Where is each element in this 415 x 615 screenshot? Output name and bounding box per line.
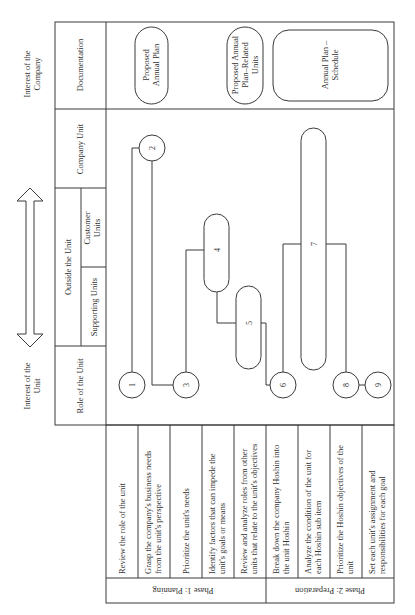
phase-label-planning: Phase 1: Planning [152, 586, 214, 596]
hoshin-process-diagram: Interest of the Company Interest of the … [0, 0, 415, 615]
step-6: Break down the company Hoshin into the u… [271, 445, 291, 574]
node-number: 3 [182, 383, 191, 387]
node-9: 9 [365, 372, 391, 398]
row-label-outside-the-unit: Outside the Unit [63, 238, 73, 295]
step-2: Grasp the company's business needs from … [143, 451, 163, 574]
document-label-line1: Annual Plan – [320, 40, 330, 89]
document-label-line1: Proposed Annual [230, 35, 240, 94]
axis-label-company-line1: Interest of the [22, 50, 32, 97]
step-1: Review the role of the unit [117, 482, 127, 574]
step-label-line1: Set each unit's assignment and [367, 470, 377, 574]
node-number: 1 [128, 383, 137, 387]
step-label-line2: unit [345, 560, 355, 574]
step-9: Set each unit's assignment and responsib… [367, 470, 387, 574]
step-5: Review and analyze roles from other unit… [239, 444, 259, 574]
node-8: 8 [333, 372, 359, 398]
node-number: 8 [342, 383, 351, 387]
row-label-role-of-the-unit: Role of the Unit [75, 358, 85, 414]
node-number: 2 [148, 146, 157, 150]
node-number: 7 [310, 242, 319, 246]
node-7: 7 [301, 128, 326, 370]
document-proposed-annual-plan-related-units: Proposed Annual Plan–Related Units [227, 27, 263, 104]
step-label-line1: Break down the company Hoshin into [271, 445, 281, 574]
row-label-documentation: Documentation [75, 38, 85, 91]
node-3: 3 [173, 372, 199, 398]
node-1: 1 [119, 372, 145, 398]
axis-label-unit-line2: Unit [32, 378, 42, 394]
document-label-line2: Schedule [330, 49, 340, 80]
step-label-line2: from the unit's perspective [153, 484, 163, 574]
step-label-line1: Prioritize the unit's needs [181, 488, 191, 574]
step-label-line2: units that relate to the unit's objectiv… [249, 444, 259, 574]
row-label-company-unit: Company Unit [75, 123, 85, 174]
node-6: 6 [270, 372, 296, 398]
axis-label-company-line2: Company [32, 57, 42, 91]
step-label-line2: the unit Hoshin [281, 521, 291, 574]
axis-label-unit-line1: Interest of the [22, 362, 32, 409]
node-number: 6 [279, 383, 288, 387]
step-label-line1: Prioritize the Hoshin objectives of the [335, 445, 345, 574]
step-label-line2: unit's goals or means [217, 503, 227, 574]
node-2: 2 [139, 135, 165, 161]
node-number: 9 [374, 383, 383, 387]
node-5: 5 [236, 286, 261, 369]
step-label-line1: Review the role of the unit [117, 482, 127, 574]
step-label-line1: Grasp the company's business needs [143, 451, 153, 574]
row-label-supporting-units: Supporting Units [89, 278, 99, 336]
document-label-line2: Plan–Related [240, 42, 250, 88]
document-label-line1: Proposed [141, 48, 151, 80]
document-label-line2: Annual Plan [151, 43, 161, 86]
step-3: Prioritize the unit's needs [181, 488, 191, 574]
step-label-line2: responsibilities for each goal [377, 475, 387, 574]
document-proposed-annual-plan: Proposed Annual Plan [135, 27, 168, 104]
row-label-customer-units-line1: Customer [82, 211, 92, 244]
node-4: 4 [204, 214, 229, 292]
step-label-line1: Review and analyze roles from other [239, 449, 249, 574]
step-label-line1: Analyze the condition of the unit for [303, 450, 313, 574]
step-4: Identify factors that can impede the uni… [207, 453, 227, 574]
interest-double-arrow-icon [17, 188, 43, 347]
row-label-customer-units-line2: Units [92, 219, 102, 237]
step-label-line2: each Hoshin sub item [313, 500, 323, 574]
node-number: 4 [213, 248, 222, 252]
step-label-line1: Identify factors that can impede the [207, 453, 217, 574]
document-annual-plan-schedule: Annual Plan – Schedule [273, 30, 388, 101]
document-label-line3: Units [250, 56, 260, 74]
phase-label-preparation: Phase 2: Preparation [294, 586, 365, 596]
step-8: Prioritize the Hoshin objectives of the … [335, 445, 355, 574]
node-number: 5 [245, 321, 254, 325]
step-7: Analyze the condition of the unit for ea… [303, 450, 323, 574]
